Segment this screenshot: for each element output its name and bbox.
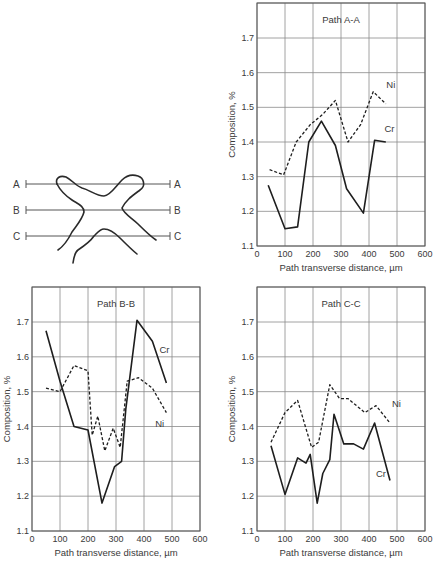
series-label-cr: Cr: [384, 123, 394, 134]
y-tick-label: 1.2: [241, 491, 254, 501]
x-tick-labels: 0100200300400500600: [254, 249, 432, 259]
x-tick-label: 0: [254, 534, 259, 544]
x-axis-label: Path transverse distance, µm: [279, 547, 402, 558]
chart-path-c-c: 01002003004005006001.11.21.31.41.51.61.7…: [226, 287, 433, 558]
y-tick-labels: 1.11.21.31.41.51.61.7: [241, 33, 254, 251]
y-tick-label: 1.7: [241, 33, 254, 43]
path-line-a: A A: [13, 179, 181, 190]
path-b-right-label: B: [174, 205, 181, 216]
y-tick-labels: 1.11.21.31.41.51.61.7: [241, 317, 254, 536]
grain-boundary-outline: [57, 175, 156, 263]
x-tick-label: 500: [389, 249, 404, 259]
series-line-cr: [268, 121, 386, 229]
x-tick-label: 600: [192, 534, 207, 544]
x-tick-label: 400: [361, 534, 376, 544]
y-tick-label: 1.2: [16, 491, 29, 501]
grid: [32, 287, 200, 531]
series-line-cr: [271, 414, 390, 503]
series-line-ni: [271, 385, 390, 448]
y-tick-label: 1.4: [16, 422, 29, 432]
x-tick-label: 100: [277, 534, 292, 544]
sample-cross-section-diagram: A A B B C C: [13, 175, 181, 263]
x-tick-label: 200: [80, 534, 95, 544]
series-label-cr: Cr: [376, 468, 386, 479]
x-tick-label: 100: [52, 534, 67, 544]
x-tick-label: 600: [417, 534, 432, 544]
x-tick-labels: 0100200300400500600: [254, 534, 432, 544]
x-tick-label: 500: [389, 534, 404, 544]
series-line-cr: [46, 320, 166, 503]
x-tick-label: 500: [164, 534, 179, 544]
grid: [257, 3, 425, 246]
y-axis-label: Composition, %: [226, 91, 237, 158]
y-tick-label: 1.3: [241, 456, 254, 466]
path-c-right-label: C: [174, 231, 181, 242]
y-tick-label: 1.1: [241, 526, 254, 536]
x-tick-label: 200: [305, 249, 320, 259]
x-tick-label: 0: [254, 249, 259, 259]
y-tick-label: 1.4: [241, 137, 254, 147]
x-tick-label: 0: [29, 534, 34, 544]
x-tick-label: 400: [136, 534, 151, 544]
y-axis-label: Composition, %: [226, 375, 237, 442]
x-tick-label: 300: [108, 534, 123, 544]
y-axis-label: Composition, %: [1, 375, 12, 442]
chart-path-a-a: 01002003004005006001.11.21.31.41.51.61.7…: [226, 3, 433, 273]
x-axis-label: Path transverse distance, µm: [279, 262, 402, 273]
y-tick-label: 1.6: [241, 68, 254, 78]
y-tick-label: 1.7: [16, 317, 29, 327]
chart-title: Path C-C: [321, 298, 360, 309]
x-tick-label: 300: [333, 249, 348, 259]
figure: A A B B C C 01002003: [0, 0, 435, 561]
y-tick-label: 1.6: [241, 352, 254, 362]
x-tick-labels: 0100200300400500600: [29, 534, 207, 544]
x-tick-label: 300: [333, 534, 348, 544]
y-tick-label: 1.3: [16, 456, 29, 466]
series-label-ni: Ni: [155, 418, 164, 429]
path-line-b: B B: [13, 205, 181, 216]
path-b-left-label: B: [13, 205, 20, 216]
y-tick-label: 1.7: [241, 317, 254, 327]
chart-title: Path A-A: [322, 14, 360, 25]
path-a-left-label: A: [13, 179, 20, 190]
figure-canvas: A A B B C C 01002003: [0, 0, 435, 561]
y-tick-label: 1.1: [241, 241, 254, 251]
y-tick-label: 1.6: [16, 352, 29, 362]
x-axis-label: Path transverse distance, µm: [54, 547, 177, 558]
y-tick-label: 1.3: [241, 172, 254, 182]
series-label-ni: Ni: [392, 398, 401, 409]
y-tick-label: 1.5: [16, 387, 29, 397]
y-tick-label: 1.1: [16, 526, 29, 536]
y-tick-label: 1.5: [241, 102, 254, 112]
chart-path-b-b: 01002003004005006001.11.21.31.41.51.61.7…: [1, 287, 208, 558]
series-label-cr: Cr: [159, 344, 169, 355]
chart-title: Path B-B: [97, 298, 135, 309]
y-tick-label: 1.4: [241, 422, 254, 432]
x-tick-label: 400: [361, 249, 376, 259]
series-line-ni: [46, 366, 166, 451]
series-label-ni: Ni: [386, 79, 395, 90]
x-tick-label: 100: [277, 249, 292, 259]
x-tick-label: 600: [417, 249, 432, 259]
y-tick-labels: 1.11.21.31.41.51.61.7: [16, 317, 29, 536]
y-tick-label: 1.2: [241, 206, 254, 216]
path-a-right-label: A: [174, 179, 181, 190]
y-tick-label: 1.5: [241, 387, 254, 397]
path-c-left-label: C: [13, 231, 20, 242]
x-tick-label: 200: [305, 534, 320, 544]
